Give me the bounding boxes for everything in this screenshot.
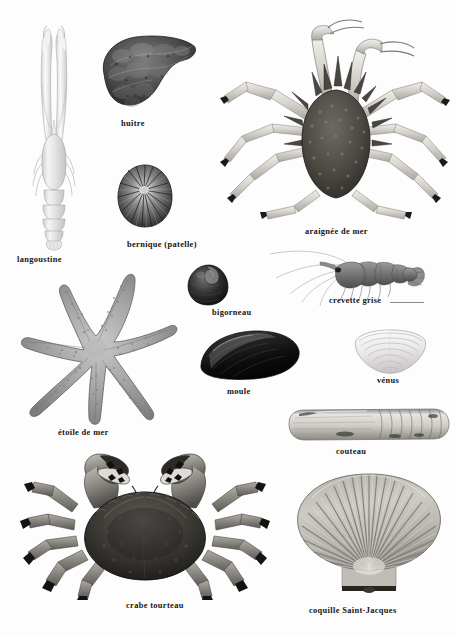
figure-venus — [350, 330, 430, 374]
figure-langoustine — [26, 22, 82, 250]
caption-huitre: huître — [121, 119, 145, 128]
figure-couteau — [283, 406, 451, 444]
leader-line-crevette-grise — [390, 302, 424, 303]
seafood-plate: langoustine — [0, 0, 457, 636]
figure-bernique-patelle — [116, 163, 174, 229]
caption-langoustine: langoustine — [17, 255, 62, 264]
figure-coquille-saint-jacques — [288, 470, 450, 598]
caption-crevette-grise: crevette grise — [329, 296, 381, 305]
caption-etoile-de-mer: étoile de mer — [58, 428, 109, 437]
figure-huitre — [96, 30, 198, 112]
caption-couteau: couteau — [336, 447, 366, 456]
figure-bigorneau — [185, 263, 233, 307]
figure-etoile-de-mer — [18, 268, 174, 426]
caption-moule: moule — [227, 387, 251, 396]
caption-bernique-patelle: bernique (patelle) — [127, 240, 197, 249]
caption-coquille-saint-jacques: coquille Saint-Jacques — [309, 606, 397, 615]
figure-moule — [197, 329, 301, 381]
caption-venus: vénus — [377, 376, 399, 385]
figure-araignee-de-mer — [216, 12, 452, 224]
caption-araignee-de-mer: araignée de mer — [305, 227, 368, 236]
caption-crabe-tourteau: crabe tourteau — [126, 601, 184, 610]
figure-crabe-tourteau — [20, 448, 270, 600]
caption-bigorneau: bigorneau — [212, 308, 251, 317]
